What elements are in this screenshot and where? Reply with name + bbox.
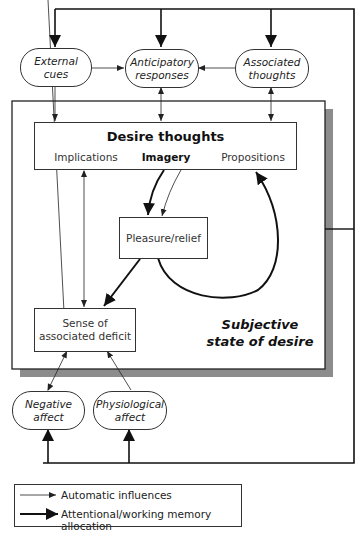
negative-line2: affect bbox=[25, 411, 72, 424]
external-cues-line2: cues bbox=[34, 68, 78, 81]
region-label-line2: state of desire bbox=[200, 333, 320, 350]
propositions-label: Propositions bbox=[213, 151, 293, 164]
external-cues-line1: External bbox=[34, 55, 78, 68]
negative-line1: Negative bbox=[25, 398, 72, 411]
anticipatory-line1: Anticipatory bbox=[130, 56, 194, 69]
external-cues-node: Externalcues bbox=[20, 48, 92, 87]
legend-box: Automatic influences Attentional/working… bbox=[14, 484, 242, 527]
desire-thoughts-box: Desire thoughts Implications Imagery Pro… bbox=[34, 122, 297, 170]
region-label-line1: Subjective bbox=[200, 316, 320, 333]
negative-affect-node: Negativeaffect bbox=[12, 391, 85, 430]
anticipatory-responses-node: Anticipatoryresponses bbox=[125, 49, 199, 88]
implications-label: Implications bbox=[41, 151, 131, 164]
sense-of-deficit-box: Sense ofassociated deficit bbox=[34, 308, 136, 352]
pleasure-relief-box: Pleasure/relief bbox=[119, 217, 208, 259]
imagery-label: Imagery bbox=[135, 151, 197, 164]
associated-line2: thoughts bbox=[244, 69, 301, 82]
physiological-affect-node: Physiologicalaffect bbox=[93, 391, 167, 430]
desire-thoughts-title: Desire thoughts bbox=[35, 130, 296, 143]
deficit-line1: Sense of bbox=[39, 317, 131, 330]
legend-attentional: Attentional/working memory allocation bbox=[61, 508, 241, 532]
associated-thoughts-node: Associatedthoughts bbox=[235, 49, 309, 88]
pleasure-relief-label: Pleasure/relief bbox=[126, 232, 201, 244]
associated-line1: Associated bbox=[244, 56, 301, 69]
legend-automatic: Automatic influences bbox=[61, 489, 172, 501]
physiological-line1: Physiological bbox=[96, 398, 164, 411]
deficit-line2: associated deficit bbox=[39, 330, 131, 343]
anticipatory-line2: responses bbox=[130, 69, 194, 82]
physiological-line2: affect bbox=[96, 411, 164, 424]
subjective-state-label: Subjective state of desire bbox=[200, 316, 320, 350]
